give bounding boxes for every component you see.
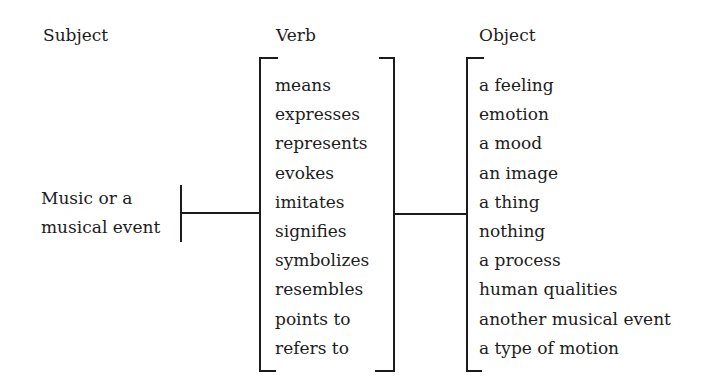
verb-bracket-left [259,57,261,372]
header-object: Object [479,25,536,45]
verb-list: means expresses represents evokes imitat… [275,71,369,363]
object-item: nothing [479,217,671,246]
object-item: another musical event [479,305,671,334]
verb-item: refers to [275,334,369,363]
object-bracket-bottom [466,370,482,372]
verb-item: imitates [275,188,369,217]
verb-item: represents [275,129,369,158]
object-item: a mood [479,129,671,158]
subject-verb-connector [181,212,260,214]
verb-item: resembles [275,275,369,304]
verb-item: signifies [275,217,369,246]
object-bracket [466,57,468,372]
verb-item: evokes [275,159,369,188]
subject-line-1: Music or a [41,188,132,208]
object-list: a feeling emotion a mood an image a thin… [479,71,671,363]
object-item: a feeling [479,71,671,100]
verb-item: means [275,71,369,100]
object-item: a process [479,246,671,275]
object-bracket-top [466,57,484,59]
verb-item: points to [275,305,369,334]
header-subject: Subject [43,25,108,45]
verb-item: symbolizes [275,246,369,275]
verb-bracket-left-top [259,57,278,59]
subject-line-2: musical event [41,217,160,237]
verb-bracket-right-top [379,57,395,59]
object-item: an image [479,159,671,188]
verb-object-connector [394,213,467,215]
verb-bracket-left-bottom [259,370,276,372]
object-item: emotion [479,100,671,129]
object-item: a type of motion [479,334,671,363]
verb-item: expresses [275,100,369,129]
object-item: human qualities [479,275,671,304]
object-item: a thing [479,188,671,217]
verb-bracket-right-bottom [375,370,395,372]
header-verb: Verb [276,25,316,45]
